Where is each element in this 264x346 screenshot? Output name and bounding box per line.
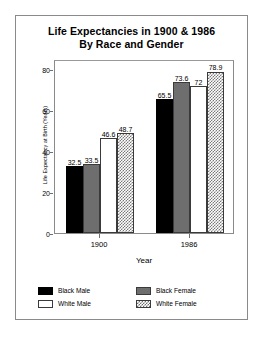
- legend-swatch-icon: [38, 300, 53, 308]
- legend-row: Black MaleBlack Female: [38, 284, 234, 297]
- legend-item: Black Female: [136, 287, 234, 295]
- x-axis-title: Year: [54, 256, 234, 265]
- bar: [156, 99, 173, 233]
- y-tick-mark: [50, 111, 53, 112]
- bar-value-label: 32.5: [67, 159, 82, 166]
- x-tick-mark: [189, 234, 190, 238]
- plot-area: Life Expectancy at Birth (Years) 0204060…: [16, 60, 249, 260]
- bar-value-label: 48.7: [118, 126, 133, 133]
- bar: [207, 72, 224, 234]
- bar-value-label: 72: [194, 79, 203, 86]
- legend-label: Black Male: [58, 287, 90, 294]
- y-tick-label: 80: [30, 67, 50, 74]
- x-tick-label: 1986: [181, 240, 198, 249]
- plot-frame: 32.533.546.648.765.573.67278.9: [54, 60, 234, 234]
- bar-value-label: 65.5: [157, 92, 172, 99]
- x-tick-mark: [99, 234, 100, 238]
- bar: [190, 86, 207, 233]
- chart-legend: Black MaleBlack FemaleWhite MaleWhite Fe…: [38, 284, 234, 310]
- y-tick-label: 0: [30, 231, 50, 238]
- legend-swatch-icon: [136, 287, 151, 295]
- bar-value-label: 73.6: [174, 75, 189, 82]
- legend-label: White Female: [156, 300, 197, 307]
- legend-swatch-icon: [38, 287, 53, 295]
- legend-swatch-icon: [136, 300, 151, 308]
- legend-label: Black Female: [156, 287, 196, 294]
- legend-item: White Male: [38, 300, 136, 308]
- bar: [66, 166, 83, 233]
- bar-value-label: 78.9: [208, 64, 223, 71]
- bar: [117, 133, 134, 233]
- legend-item: Black Male: [38, 287, 136, 295]
- bar: [83, 164, 100, 233]
- chart-title: Life Expectancies in 1900 & 1986 By Race…: [16, 25, 247, 51]
- y-tick-mark: [50, 234, 53, 235]
- y-tick-label: 20: [30, 190, 50, 197]
- chart-title-line-2: By Race and Gender: [16, 38, 247, 51]
- y-tick-label: 60: [30, 108, 50, 115]
- y-axis-ticks: 020406080: [26, 60, 50, 234]
- y-tick-mark: [50, 193, 53, 194]
- bar: [100, 138, 117, 233]
- bar-value-label: 33.5: [84, 157, 99, 164]
- y-tick-label: 40: [30, 149, 50, 156]
- figure-frame: Life Expectancies in 1900 & 1986 By Race…: [15, 15, 248, 320]
- x-tick-label: 1900: [91, 240, 108, 249]
- bars-layer: 32.533.546.648.765.573.67278.9: [55, 61, 233, 233]
- bar: [173, 82, 190, 233]
- y-tick-mark: [50, 70, 53, 71]
- legend-row: White MaleWhite Female: [38, 297, 234, 310]
- chart-title-line-1: Life Expectancies in 1900 & 1986: [16, 25, 247, 38]
- bar-value-label: 46.6: [101, 131, 116, 138]
- legend-item: White Female: [136, 300, 234, 308]
- y-tick-mark: [50, 152, 53, 153]
- legend-label: White Male: [58, 300, 91, 307]
